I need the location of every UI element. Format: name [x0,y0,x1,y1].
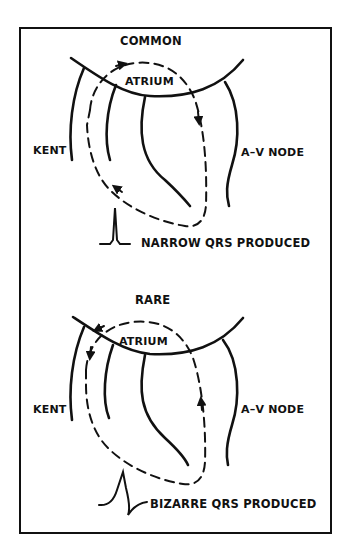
qrs-label-common: NARROW QRS PRODUCED [141,238,310,250]
narrow-qrs-waveform [100,208,130,244]
ventricle-line-inner [105,345,113,418]
qrs-label-rare: BIZARRE QRS PRODUCED [150,499,317,511]
panel-title-common: COMMON [120,36,182,48]
av-node-line [225,82,237,206]
ventricle-line-inner [107,85,116,160]
arrow-left-down [90,347,91,357]
arrow-bottom-left [115,187,122,192]
bizarre-qrs-waveform [99,472,147,515]
panel-title-rare: RARE [135,295,170,307]
arrow-top-right [116,64,124,66]
kent-pathway-line [71,327,85,420]
arrow-right-down [198,112,199,122]
septum-line [142,355,188,465]
atrium-label-common: ATRIUM [125,76,174,87]
kent-label-rare: KENT [33,404,67,415]
diagram-canvas: COMMON ATRIUM KENT A–V NODE NARROW QRS P… [0,0,347,557]
av-node-label-common: A–V NODE [241,147,304,158]
arrow-top-left [96,326,104,330]
kent-label-common: KENT [33,145,67,156]
arrow-right-up [201,400,202,410]
av-node-line [223,340,237,465]
atrium-label-rare: ATRIUM [119,336,168,347]
kent-pathway-line [71,68,85,160]
av-node-label-rare: A–V NODE [241,404,304,415]
septum-line [142,97,190,206]
